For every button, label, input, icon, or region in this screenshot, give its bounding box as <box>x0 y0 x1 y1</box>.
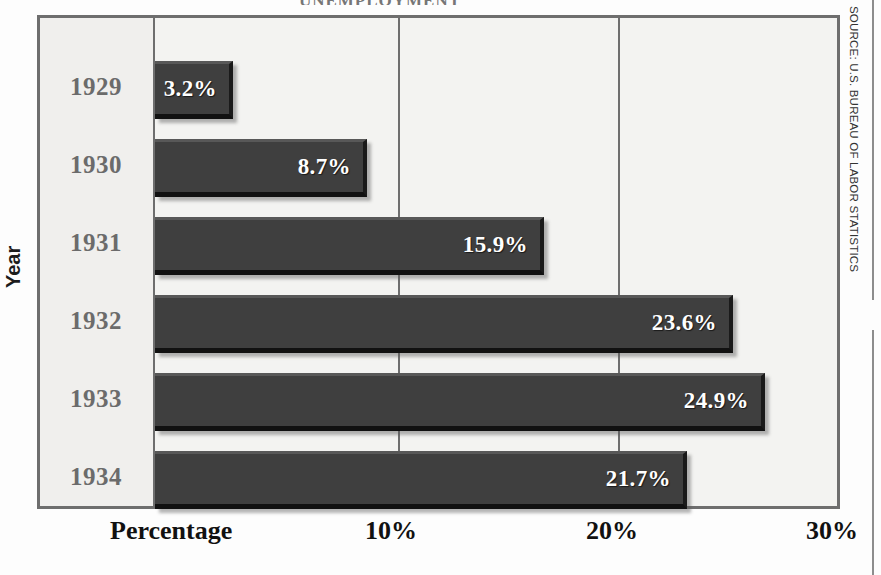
x-tick-30: 30% <box>806 516 858 546</box>
bar-1931[interactable]: 15.9% <box>155 217 544 275</box>
year-label-1932: 1932 <box>44 307 148 335</box>
chart-container: UNEMPLOYMENT Year 1929 3.2% 1930 8.7% 19… <box>0 0 881 575</box>
bar-value-1934: 21.7% <box>606 466 671 492</box>
bar-value-1930: 8.7% <box>298 154 351 180</box>
bar-value-1931: 15.9% <box>463 232 528 258</box>
y-axis-title: Year <box>2 246 25 288</box>
right-divider-rule-lower <box>872 330 874 575</box>
bar-1929[interactable]: 3.2% <box>155 61 233 119</box>
chart-title: UNEMPLOYMENT <box>0 0 760 5</box>
bar-1930[interactable]: 8.7% <box>155 139 367 197</box>
x-axis-title: Percentage <box>110 516 232 546</box>
year-label-1930: 1930 <box>44 151 148 179</box>
bar-1932[interactable]: 23.6% <box>155 295 733 353</box>
bar-1933[interactable]: 24.9% <box>155 373 765 431</box>
bar-value-1929: 3.2% <box>164 76 217 102</box>
right-divider-rule <box>872 0 874 300</box>
year-label-1929: 1929 <box>44 73 148 101</box>
bar-row-1929: 3.2% <box>155 61 841 119</box>
bar-row-1931: 15.9% <box>155 217 841 275</box>
source-note: SOURCE: U.S. BUREAU OF LABOR STATISTICS <box>560 6 860 26</box>
bar-1934[interactable]: 21.7% <box>155 451 687 509</box>
x-tick-10: 10% <box>365 516 417 546</box>
bar-row-1930: 8.7% <box>155 139 841 197</box>
plot-area: 1929 3.2% 1930 8.7% 1931 15.9% 1932 23.6… <box>37 15 840 509</box>
bar-value-1932: 23.6% <box>652 310 717 336</box>
year-label-1934: 1934 <box>44 463 148 491</box>
bar-value-1933: 24.9% <box>684 388 749 414</box>
bar-row-1934: 21.7% <box>155 451 841 509</box>
bar-row-1933: 24.9% <box>155 373 841 431</box>
bar-row-1932: 23.6% <box>155 295 841 353</box>
year-label-1933: 1933 <box>44 385 148 413</box>
year-label-1931: 1931 <box>44 229 148 257</box>
x-tick-20: 20% <box>586 516 638 546</box>
